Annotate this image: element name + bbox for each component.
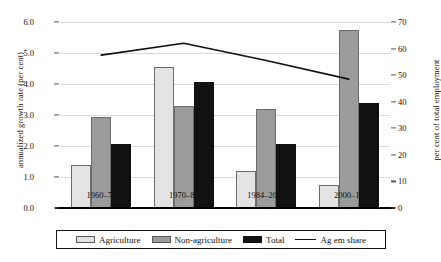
right-axis-tick-mark: [391, 21, 396, 22]
x-axis-baseline: [55, 207, 395, 208]
left-axis-tick-label: 0.0: [23, 203, 34, 213]
legend-swatch-icon: [243, 236, 262, 243]
legend-item[interactable]: Non-agriculture: [152, 235, 232, 245]
legend-swatch-icon: [152, 236, 171, 243]
left-axis-tick-label: 1.0: [23, 172, 34, 182]
legend-item-label: Ag em share: [320, 235, 365, 245]
bar: [339, 30, 359, 208]
legend-item[interactable]: Agriculture: [76, 235, 140, 245]
right-axis-title: per cent of total employment: [431, 30, 441, 190]
right-axis-tick-label: 0: [398, 203, 402, 213]
legend-swatch-icon: [295, 239, 316, 240]
bar: [154, 67, 174, 208]
right-axis-tick-mark: [391, 75, 396, 76]
right-axis-tick-label: 10: [398, 176, 407, 186]
legend-swatch-icon: [76, 236, 95, 243]
x-axis-tick-label: 1960–70: [86, 190, 116, 200]
right-axis-tick-mark: [391, 128, 396, 129]
bar: [71, 165, 91, 208]
left-axis-tick-label: 4.0: [23, 79, 34, 89]
right-axis-tick-label: 30: [398, 123, 407, 133]
left-axis-tick-mark: [54, 176, 59, 177]
left-axis-tick-label: 2.0: [23, 141, 34, 151]
bar-series-layer: [60, 22, 390, 208]
right-axis-tick-mark: [391, 181, 396, 182]
left-axis-tick-mark: [54, 21, 59, 22]
right-axis-tick-label: 70: [398, 17, 407, 27]
legend-item[interactable]: Ag em share: [295, 235, 365, 245]
left-axis-tick-mark: [54, 207, 59, 208]
left-axis-tick-mark: [54, 145, 59, 146]
left-axis-tick-label: 6.0: [23, 17, 34, 27]
x-axis-tick-label: 2000–10: [334, 190, 364, 200]
left-axis-tick-mark: [54, 114, 59, 115]
left-axis-tick-label: 5.0: [23, 48, 34, 58]
left-axis-tick-mark: [54, 83, 59, 84]
legend-item-label: Agriculture: [99, 235, 140, 245]
right-axis-tick-mark: [391, 101, 396, 102]
plot-area: [60, 22, 390, 208]
right-axis-tick-label: 50: [398, 70, 407, 80]
right-axis-tick-mark: [391, 154, 396, 155]
right-axis-tick-label: 60: [398, 44, 407, 54]
right-axis-tick-label: 20: [398, 150, 407, 160]
x-axis-tick-label: 1970–84: [169, 190, 199, 200]
x-axis-tick-label: 1984–2000: [247, 190, 285, 200]
right-axis-tick-label: 40: [398, 97, 407, 107]
legend-item-label: Total: [266, 235, 284, 245]
left-axis-tick-mark: [54, 52, 59, 53]
legend-item-label: Non-agriculture: [175, 235, 232, 245]
chart-legend: AgricultureNon-agricultureTotalAg em sha…: [56, 230, 386, 249]
right-axis-tick-mark: [391, 48, 396, 49]
legend-item[interactable]: Total: [243, 235, 284, 245]
left-axis-tick-label: 3.0: [23, 110, 34, 120]
right-axis-tick-mark: [391, 207, 396, 208]
